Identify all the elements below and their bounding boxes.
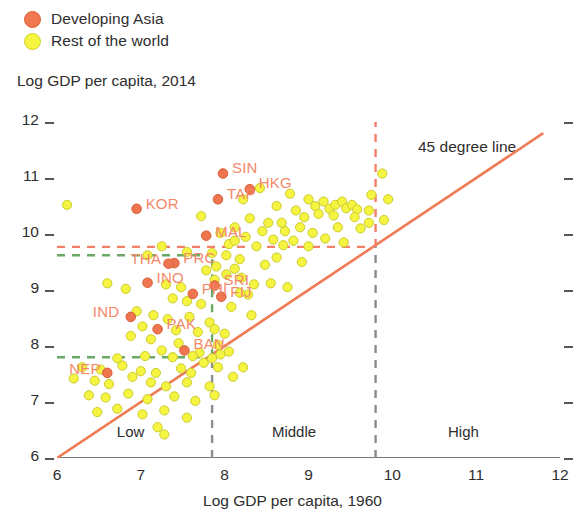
- data-point-rest-of-world: [140, 351, 149, 360]
- data-point-rest-of-world: [138, 410, 147, 419]
- data-point-rest-of-world: [199, 358, 208, 367]
- data-point-rest-of-world: [283, 283, 292, 292]
- y-tick-mark-right: [564, 178, 573, 180]
- data-point-rest-of-world: [146, 335, 155, 344]
- data-point-developing-asia: [188, 289, 198, 299]
- data-point-rest-of-world: [182, 378, 191, 387]
- data-point-developing-asia: [103, 368, 113, 378]
- data-point-rest-of-world: [289, 236, 298, 245]
- plot-area: [57, 122, 560, 458]
- data-point-rest-of-world: [329, 211, 338, 220]
- y-tick-label: 9: [9, 279, 39, 297]
- data-point-rest-of-world: [197, 211, 206, 220]
- data-point-rest-of-world: [378, 169, 387, 178]
- data-point-rest-of-world: [291, 206, 300, 215]
- data-point-rest-of-world: [321, 234, 330, 243]
- y-tick-mark-right: [564, 234, 573, 236]
- data-point-rest-of-world: [339, 238, 348, 247]
- data-point-rest-of-world: [227, 302, 236, 311]
- data-point-rest-of-world: [300, 213, 309, 222]
- data-point-rest-of-world: [138, 322, 147, 331]
- data-point-rest-of-world: [297, 257, 306, 266]
- x-tick-label: 6: [37, 466, 77, 484]
- data-point-rest-of-world: [168, 353, 177, 362]
- data-point-rest-of-world: [157, 346, 166, 355]
- legend-item-rest-of-world: Rest of the world: [24, 30, 169, 52]
- data-point-rest-of-world: [93, 407, 102, 416]
- x-tick-label: 8: [205, 466, 245, 484]
- chart-legend: Developing Asia Rest of the world: [24, 8, 169, 52]
- data-point-rest-of-world: [272, 201, 281, 210]
- point-label-mal: MAL: [215, 223, 246, 240]
- data-point-rest-of-world: [197, 299, 206, 308]
- data-point-rest-of-world: [205, 382, 214, 391]
- data-point-rest-of-world: [364, 218, 373, 227]
- y-tick-mark: [45, 122, 54, 124]
- point-label-sin: SIN: [232, 159, 258, 176]
- y-tick-mark: [45, 402, 54, 404]
- data-point-rest-of-world: [149, 311, 158, 320]
- x-tick-label: 11: [456, 466, 496, 484]
- category-label-low: Low: [117, 423, 145, 440]
- legend-label-developing-asia: Developing Asia: [51, 10, 164, 28]
- y-tick-mark-right: [564, 402, 573, 404]
- data-point-rest-of-world: [170, 392, 179, 401]
- data-point-rest-of-world: [126, 331, 135, 340]
- data-point-rest-of-world: [151, 368, 160, 377]
- data-point-rest-of-world: [118, 361, 127, 370]
- data-point-rest-of-world: [101, 393, 110, 402]
- data-point-rest-of-world: [280, 227, 289, 236]
- y-tick-label: 12: [9, 111, 39, 129]
- circle-marker-icon: [24, 11, 41, 28]
- data-point-rest-of-world: [350, 213, 359, 222]
- category-label-high: High: [448, 423, 479, 440]
- point-label-ind: IND: [93, 303, 119, 320]
- point-label-ban: BAN: [193, 335, 224, 352]
- x-tick-label: 7: [121, 466, 161, 484]
- data-point-rest-of-world: [314, 209, 323, 218]
- x-tick-label: 9: [289, 466, 329, 484]
- data-point-rest-of-world: [210, 325, 219, 334]
- y-tick-label: 7: [9, 391, 39, 409]
- data-point-rest-of-world: [272, 253, 281, 262]
- data-point-developing-asia: [153, 324, 163, 334]
- y-tick-mark: [45, 458, 54, 460]
- point-label-fij: FIJ: [230, 283, 251, 300]
- data-point-rest-of-world: [304, 242, 313, 251]
- y-tick-mark-right: [564, 122, 573, 124]
- y-tick-mark: [45, 234, 54, 236]
- data-point-rest-of-world: [379, 215, 388, 224]
- data-point-rest-of-world: [202, 266, 211, 275]
- data-point-rest-of-world: [168, 294, 177, 303]
- y-tick-label: 11: [9, 167, 39, 185]
- data-point-rest-of-world: [269, 235, 278, 244]
- data-point-rest-of-world: [277, 218, 286, 227]
- data-point-rest-of-world: [128, 372, 137, 381]
- data-point-rest-of-world: [146, 378, 155, 387]
- y-axis-title: Log GDP per capita, 2014: [17, 72, 196, 90]
- 45-degree-line: [57, 133, 543, 458]
- data-point-developing-asia: [126, 312, 136, 322]
- data-point-rest-of-world: [367, 190, 376, 199]
- y-tick-mark: [45, 290, 54, 292]
- data-point-rest-of-world: [62, 200, 71, 209]
- data-point-rest-of-world: [264, 218, 273, 227]
- data-point-rest-of-world: [228, 372, 237, 381]
- data-point-developing-asia: [180, 346, 190, 356]
- point-label-ino: INO: [157, 269, 184, 286]
- data-point-rest-of-world: [143, 395, 152, 404]
- data-point-rest-of-world: [252, 242, 261, 251]
- data-point-rest-of-world: [224, 347, 233, 356]
- category-label-middle: Middle: [272, 423, 316, 440]
- data-point-developing-asia: [218, 169, 228, 179]
- point-label-nep: NEP: [69, 360, 100, 377]
- point-label-kor: KOR: [146, 195, 179, 212]
- data-point-rest-of-world: [160, 430, 169, 439]
- point-label-hkg: HKG: [259, 174, 292, 191]
- data-point-rest-of-world: [176, 364, 185, 373]
- data-point-rest-of-world: [258, 227, 267, 236]
- data-point-rest-of-world: [103, 279, 112, 288]
- data-point-rest-of-world: [260, 260, 269, 269]
- x-axis-title: Log GDP per capita, 1960: [0, 492, 585, 510]
- data-point-rest-of-world: [136, 367, 145, 376]
